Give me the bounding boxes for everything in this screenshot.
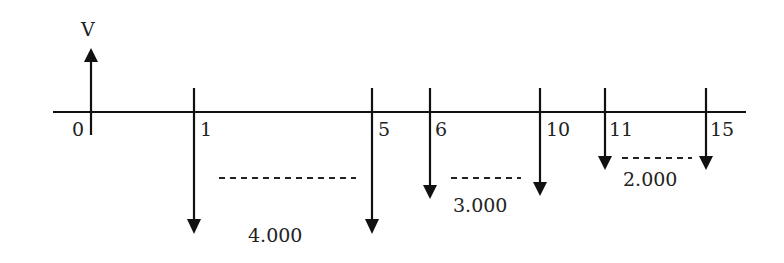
amount-label-6-10: 3.000 (453, 196, 507, 215)
outflow-arrow-6 (423, 88, 437, 199)
tick-label-0: 0 (72, 120, 84, 139)
tick-label-15: 15 (710, 120, 734, 139)
cash-flow-diagram: V 0 1 5 6 10 11 15 4.000 3.000 2.000 (0, 0, 784, 263)
amount-label-1-5: 4.000 (248, 226, 302, 245)
outflow-arrow-10 (533, 88, 547, 196)
tick-label-1: 1 (200, 120, 212, 139)
tick-label-6: 6 (435, 120, 447, 139)
amount-label-11-15: 2.000 (623, 170, 677, 189)
label-v: V (81, 20, 95, 39)
tick-label-5: 5 (378, 120, 390, 139)
timeline-graphic (0, 0, 784, 263)
outflow-arrow-5 (365, 88, 379, 234)
tick-label-10: 10 (546, 120, 570, 139)
tick-label-11: 11 (609, 120, 633, 139)
inflow-arrow-0 (84, 48, 98, 135)
outflow-arrow-1 (187, 88, 201, 234)
